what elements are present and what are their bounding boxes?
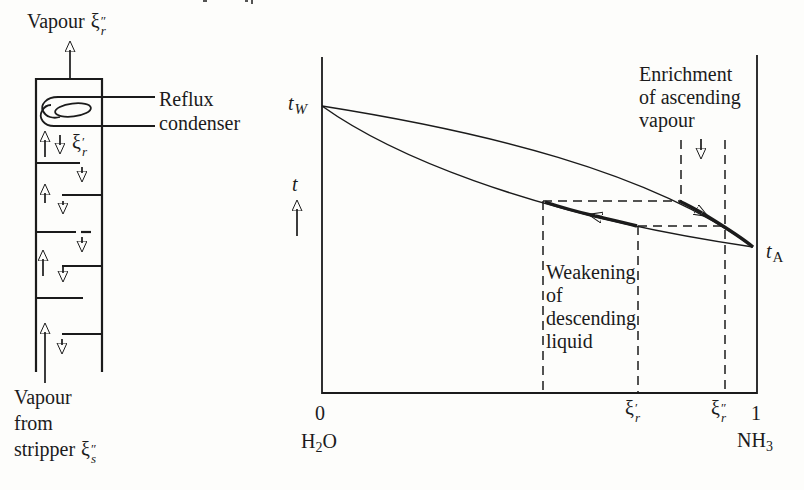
- xi-s-double-prime-symbol: ξ″s: [81, 436, 96, 465]
- xi-r-prime-symbol: ξ′r: [625, 397, 640, 424]
- xi-r-double-prime-symbol: ξ″r: [91, 10, 106, 37]
- xi-r-double-prime-symbol: ξ″r: [711, 397, 726, 424]
- xi-base: ξ: [711, 397, 720, 419]
- chem-symbol: O: [322, 430, 336, 452]
- label-line: descending: [546, 307, 636, 330]
- label-line: Enrichment: [639, 63, 741, 86]
- liquid-weakening-segment: [545, 202, 595, 216]
- x-axis-tick-one: 1: [751, 402, 761, 425]
- column-internal-composition-label: ξ′r: [72, 131, 87, 158]
- liquid-weakening-segment: [595, 216, 637, 226]
- column-top-vapour-label: Vapourξ″r: [27, 10, 106, 37]
- label-line: vapour: [639, 109, 741, 132]
- reflux-condenser-label: Reflux condenser: [159, 87, 240, 135]
- x-axis-left-species-label: H2O: [301, 430, 337, 455]
- label-line: of: [546, 284, 636, 307]
- x-axis-tick-zero: 0: [315, 402, 325, 425]
- liquid-down-arrows: [60, 135, 82, 345]
- xi-r-double-prime-axis-label: ξ″r: [711, 397, 726, 424]
- xi-subscript: r: [82, 146, 87, 158]
- temp-symbol: t: [288, 92, 294, 114]
- chem-symbol: NH: [737, 429, 766, 451]
- xi-base: ξ: [625, 397, 634, 419]
- label-line: of ascending: [639, 86, 741, 109]
- label-line: Vapour: [14, 384, 96, 410]
- vapour-enrichment-segment: [679, 201, 702, 213]
- xi-base: ξ: [81, 438, 90, 460]
- xi-subscript: r: [635, 412, 640, 424]
- temp-axis-label: t: [292, 173, 298, 196]
- chem-subscript: 2: [315, 440, 322, 455]
- xi-r-prime-symbol: ξ′r: [72, 131, 87, 158]
- xi-subscript: r: [721, 412, 726, 424]
- page-crop-artifact: [203, 0, 252, 4]
- chem-symbol: H: [301, 430, 315, 452]
- xi-subscript: s: [91, 453, 96, 465]
- label-line: liquid: [546, 330, 636, 353]
- label-line: Reflux: [159, 87, 240, 111]
- xi-subscript: r: [101, 25, 106, 37]
- temp-symbol: t: [766, 240, 772, 262]
- label-word: Vapour: [27, 10, 85, 32]
- label-line: condenser: [159, 111, 240, 135]
- enrichment-annotation: Enrichment of ascending vapour: [639, 63, 741, 132]
- label-word: stripper: [14, 438, 75, 460]
- xi-base: ξ: [72, 131, 81, 153]
- vapour-up-arrows: [43, 140, 45, 383]
- label-line: stripperξ″s: [14, 436, 96, 465]
- xi-base: ξ: [91, 10, 100, 32]
- chem-subscript: 3: [766, 439, 773, 454]
- coil-loop: [54, 101, 91, 118]
- rectifier-column-drawing: [36, 50, 155, 383]
- weakening-annotation: Weakening of descending liquid: [546, 261, 636, 353]
- label-line: Weakening: [546, 261, 636, 284]
- textbook-figure: Vapourξ″r Reflux condenser ξ′r Vapour fr…: [0, 0, 804, 490]
- column-trays: [36, 163, 102, 334]
- temp-subscript: W: [295, 101, 308, 117]
- temp-subscript: A: [773, 249, 784, 265]
- vapour-enrichment-segment: [702, 213, 753, 247]
- tw-label: tW: [288, 92, 307, 117]
- column-bottom-vapour-label: Vapour from stripperξ″s: [14, 384, 96, 465]
- reflux-condenser-coil: [41, 97, 155, 126]
- label-line: from: [14, 410, 96, 436]
- x-axis-right-species-label: NH3: [737, 429, 773, 454]
- xi-r-prime-axis-label: ξ′r: [625, 397, 640, 424]
- ta-label: tA: [766, 240, 783, 265]
